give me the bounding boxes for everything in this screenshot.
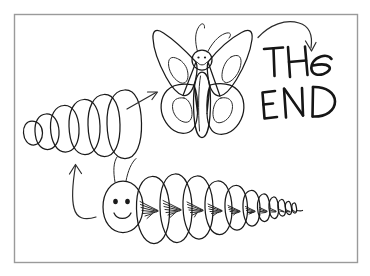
caterpillar-eye-right — [125, 199, 130, 205]
page-background — [0, 0, 370, 276]
butterfly-eye-right — [204, 56, 206, 58]
drawing-canvas: THe END caterpillar chrysalis butterfly … — [0, 0, 370, 276]
caterpillar-eye-left — [113, 199, 118, 205]
hand-drawn-illustration — [0, 0, 370, 276]
butterfly-eye-left — [197, 56, 199, 58]
